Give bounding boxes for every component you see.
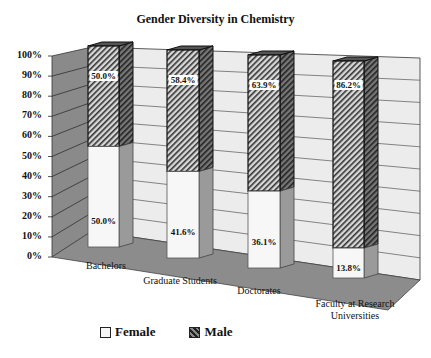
legend: Female Male bbox=[100, 324, 233, 340]
legend-item-male: Male bbox=[189, 324, 232, 340]
y-tick-label: 80% bbox=[2, 89, 42, 100]
side-wall bbox=[52, 47, 92, 257]
y-tick-label: 90% bbox=[2, 69, 42, 80]
bar-female bbox=[88, 147, 119, 248]
bar-female bbox=[248, 191, 280, 268]
y-tick-label: 20% bbox=[2, 210, 42, 221]
y-tick-label: 10% bbox=[2, 230, 42, 241]
value-label-female: 13.8% bbox=[334, 263, 363, 273]
x-category-label: Graduate Students bbox=[130, 275, 230, 287]
value-label-female: 50.0% bbox=[89, 216, 118, 226]
legend-label-male: Male bbox=[204, 324, 232, 340]
x-category-label: Bachelors bbox=[76, 260, 136, 272]
y-tick-label: 60% bbox=[2, 129, 42, 140]
value-label-male: 86.2% bbox=[334, 80, 363, 90]
male-swatch-icon bbox=[189, 327, 200, 338]
value-label-female: 36.1% bbox=[250, 237, 279, 247]
y-tick-label: 0% bbox=[2, 250, 42, 261]
y-tick-label: 50% bbox=[2, 150, 42, 161]
y-tick-label: 30% bbox=[2, 190, 42, 201]
value-label-male: 58.4% bbox=[169, 75, 198, 85]
value-label-male: 50.0% bbox=[89, 71, 118, 81]
female-swatch-icon bbox=[100, 327, 111, 338]
bar-male bbox=[248, 55, 280, 191]
chart-title: Gender Diversity in Chemistry bbox=[0, 12, 431, 27]
y-tick-label: 100% bbox=[2, 49, 42, 60]
value-label-male: 63.9% bbox=[250, 80, 279, 90]
value-label-female: 41.6% bbox=[169, 227, 198, 237]
bar-female bbox=[167, 171, 199, 258]
y-tick-label: 70% bbox=[2, 109, 42, 120]
legend-label-female: Female bbox=[115, 324, 155, 340]
legend-item-female: Female bbox=[100, 324, 155, 340]
x-category-label: Doctorates bbox=[224, 285, 294, 297]
y-tick-label: 40% bbox=[2, 170, 42, 181]
bar-male bbox=[167, 50, 199, 171]
bar-male bbox=[88, 46, 119, 147]
x-category-label: Faculty at ResearchUniversities bbox=[290, 298, 420, 322]
